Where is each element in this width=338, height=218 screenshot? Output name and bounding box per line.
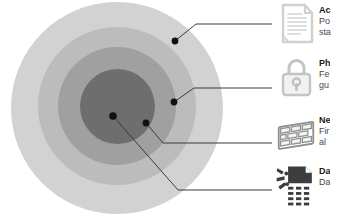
callout-title: Ac: [319, 5, 331, 16]
callout-item-network[interactable]: Ne Fir al: [276, 112, 338, 156]
brick-wall-icon: [276, 112, 316, 156]
callout-item-data[interactable]: Da Da: [276, 163, 338, 207]
callout-item-access[interactable]: Ac Po sta: [276, 2, 338, 46]
callout-title: Da: [319, 166, 330, 177]
callout-title: Ph: [319, 58, 330, 69]
callout-title: Ne: [319, 115, 330, 126]
callout-desc-line2: al: [319, 137, 330, 148]
callout-desc-line1: Fe: [319, 69, 330, 80]
shredded-data-icon: [276, 163, 316, 207]
callout-item-physical[interactable]: Ph Fe gu: [276, 55, 338, 99]
callout-text-block: Da Da: [319, 163, 330, 188]
concentric-rings-diagram: [0, 0, 230, 218]
callout-desc-line1: Po: [319, 16, 331, 27]
callout-desc-line2: sta: [319, 27, 331, 38]
callout-list: Ac Po sta Ph Fe gu: [276, 0, 338, 218]
callout-text-block: Ne Fir al: [319, 112, 330, 148]
ring-core: [80, 69, 155, 144]
callout-text-block: Ph Fe gu: [319, 55, 330, 91]
callout-desc-line2: gu: [319, 80, 330, 91]
document-icon: [276, 2, 316, 46]
callout-text-block: Ac Po sta: [319, 2, 331, 38]
padlock-icon: [276, 55, 316, 99]
callout-desc-line1: Da: [319, 177, 330, 188]
callout-desc-line1: Fir: [319, 126, 330, 137]
